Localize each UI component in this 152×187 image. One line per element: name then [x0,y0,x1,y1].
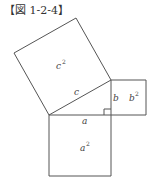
label-b-squared-exp: 2 [135,90,139,97]
pythagorean-diagram: c 2 c b b 2 a a 2 [0,0,152,187]
label-c-side: c [74,87,79,97]
square-c-squared [14,18,111,115]
right-angle-marker [104,109,111,115]
label-c-squared-exp: 2 [62,58,66,65]
label-b-side: b [113,93,119,103]
label-a-squared-base: a [80,143,85,153]
label-a-side: a [82,116,87,126]
label-c-squared-base: c [56,61,61,71]
label-a-squared-exp: 2 [86,140,90,147]
